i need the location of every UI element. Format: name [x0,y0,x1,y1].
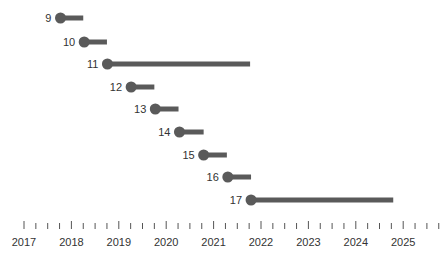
x-tick-label: 2021 [201,236,225,248]
x-tick-label: 2025 [391,236,415,248]
row-label: 10 [63,36,75,48]
row-label: 12 [110,81,122,93]
start-dot [222,172,233,183]
timeline-row: 17 [230,194,393,206]
start-dot [174,127,185,138]
x-tick-label: 2017 [12,236,36,248]
start-dot [150,104,161,115]
start-dot [79,37,90,48]
row-label: 16 [207,171,219,183]
x-tick-label: 2018 [59,236,83,248]
x-tick-label: 2020 [154,236,178,248]
timeline-row: 10 [63,36,107,48]
timeline-row: 9 [45,12,83,24]
row-label: 9 [45,12,51,24]
x-tick-label: 2023 [296,236,320,248]
start-dot [126,82,137,93]
timeline-row: 13 [134,103,178,115]
row-label: 15 [182,149,194,161]
x-tick-label: 2022 [249,236,273,248]
x-axis: 201720182019202020212022202320242025 [12,221,439,248]
row-label: 11 [87,58,98,70]
row-label: 13 [134,103,146,115]
x-tick-label: 2019 [107,236,131,248]
timeline-row: 14 [158,126,203,138]
timeline-row: 15 [182,149,226,161]
timeline-rows: 91011121314151617 [45,12,393,206]
row-label: 14 [158,126,170,138]
timeline-row: 12 [110,81,154,93]
x-tick-label: 2024 [344,236,368,248]
start-dot [55,13,66,24]
start-dot [198,150,209,161]
timeline-row: 16 [207,171,251,183]
timeline-row: 11 [87,58,250,70]
row-label: 17 [230,194,242,206]
release-timeline-chart: 91011121314151617 2017201820192020202120… [0,0,446,262]
start-dot [102,59,113,70]
start-dot [246,195,257,206]
